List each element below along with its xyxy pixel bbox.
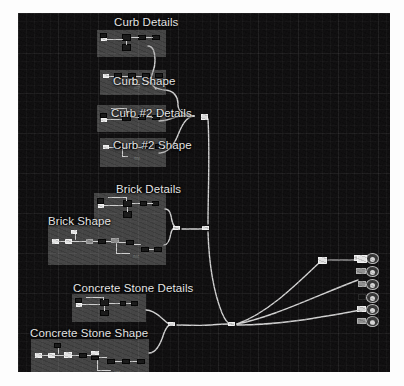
node-graph-canvas[interactable]: Curb Details ⌷⌷⌷ Curb Shape (18, 13, 390, 372)
output-pin-4[interactable] (366, 304, 379, 315)
output-pin-5[interactable] (366, 316, 379, 327)
group-title-curb-details: Curb Details (114, 16, 178, 29)
output-stub-5[interactable] (357, 318, 366, 324)
group-title-curb-2-shape: Curb #2 Shape (113, 139, 192, 152)
relay-node-b[interactable] (357, 255, 367, 263)
group-concrete-stone-details[interactable] (72, 294, 146, 322)
output-stub-2[interactable] (358, 281, 366, 287)
group-title-concrete-stone-details: Concrete Stone Details (73, 282, 193, 295)
reroute-main-out[interactable] (228, 322, 235, 326)
reroute-curb-top[interactable] (201, 114, 208, 120)
group-concrete-stone-shape[interactable]: ⌷⌷⌷ (31, 339, 149, 372)
screenshot-root: Curb Details ⌷⌷⌷ Curb Shape (0, 0, 404, 386)
node-caption: ⌷⌷⌷ (134, 157, 141, 161)
output-stub-4[interactable] (357, 306, 366, 312)
node-caption: ⌷⌷⌷ (114, 371, 121, 372)
output-stub-1[interactable] (356, 268, 366, 274)
output-pin-0[interactable] (366, 253, 379, 264)
node-caption: ⌷⌷⌷ (133, 255, 140, 259)
reroute-brick-join[interactable] (173, 226, 180, 230)
group-title-brick-shape: Brick Shape (48, 215, 111, 228)
output-stub-3[interactable] (358, 294, 366, 300)
relay-node-a[interactable] (318, 257, 327, 264)
group-brick-shape[interactable]: ⌷⌷⌷ (48, 225, 166, 265)
output-pin-2[interactable] (366, 279, 379, 290)
group-curb-details[interactable] (97, 30, 166, 57)
reroute-concrete-in[interactable] (168, 322, 175, 326)
reroute-curb-join[interactable] (202, 226, 209, 230)
group-title-concrete-stone-shape: Concrete Stone Shape (30, 327, 148, 340)
group-title-curb-2-details: Curb #2 Details (111, 107, 192, 120)
material-output-node[interactable] (366, 251, 390, 323)
group-title-brick-details: Brick Details (116, 183, 181, 196)
group-title-curb-shape: Curb Shape (113, 75, 175, 88)
output-pin-3[interactable] (366, 292, 379, 303)
output-pin-1[interactable] (366, 266, 379, 277)
